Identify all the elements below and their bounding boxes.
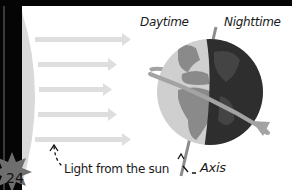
light-ray-arrow-icon	[35, 133, 131, 146]
axis-label: Axis	[200, 160, 226, 175]
light-ray-arrow-icon	[39, 83, 112, 96]
top-frame	[0, 0, 292, 6]
earth-globe-icon	[157, 36, 270, 150]
light-rays	[35, 33, 131, 146]
light-from-sun-label: Light from the sun	[64, 162, 169, 176]
nighttime-label: Nighttime	[224, 15, 281, 29]
light-ray-arrow-icon	[38, 58, 117, 71]
daytime-label: Daytime	[140, 15, 189, 29]
light-ray-arrow-icon	[35, 33, 131, 46]
light-pointer-line	[54, 146, 62, 166]
light-ray-arrow-icon	[38, 108, 117, 121]
axis-pointer-arrowhead-icon	[178, 154, 184, 159]
page-number: 24	[6, 170, 24, 186]
axis-pointer-line	[183, 166, 196, 173]
diagram-page: Daytime Nighttime Light from the sun Axi…	[0, 0, 292, 190]
